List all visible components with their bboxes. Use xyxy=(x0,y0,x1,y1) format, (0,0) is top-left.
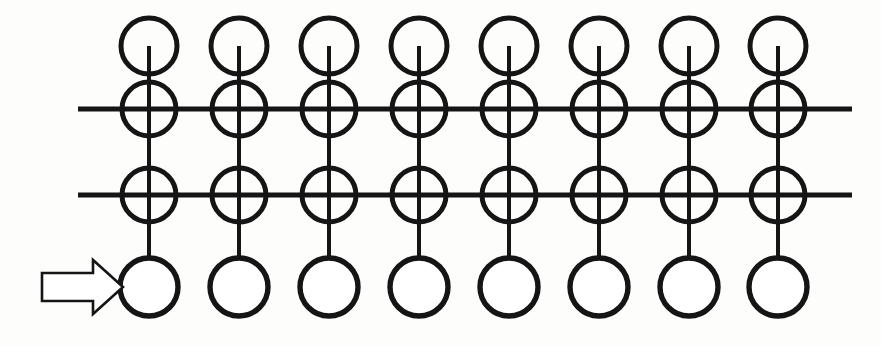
bottom-node-column-2 xyxy=(210,258,268,316)
bottom-node-column-1 xyxy=(120,258,178,316)
bottom-node-column-4 xyxy=(390,258,448,316)
diagram-svg xyxy=(0,0,881,346)
bottom-node-column-6 xyxy=(570,258,628,316)
vertical-stems-group xyxy=(149,46,778,258)
bottom-node-column-5 xyxy=(480,258,538,316)
node-circles-group xyxy=(120,18,807,316)
horizontal-rails-group xyxy=(78,109,852,195)
bottom-node-column-8 xyxy=(749,258,807,316)
left-pointer-arrow xyxy=(42,260,123,314)
pointer-arrow-group xyxy=(42,260,123,314)
bottom-node-column-3 xyxy=(300,258,358,316)
diagram-canvas xyxy=(0,0,881,346)
bottom-node-column-7 xyxy=(660,258,718,316)
